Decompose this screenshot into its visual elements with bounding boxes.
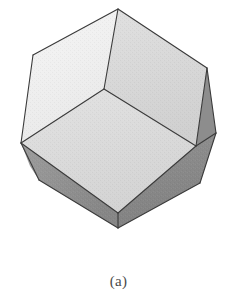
figure-caption: (a) xyxy=(0,272,237,290)
polyhedron-illustration xyxy=(0,0,237,260)
polyhedron-face-texture xyxy=(21,9,216,228)
figure-container: (a) xyxy=(0,0,237,298)
